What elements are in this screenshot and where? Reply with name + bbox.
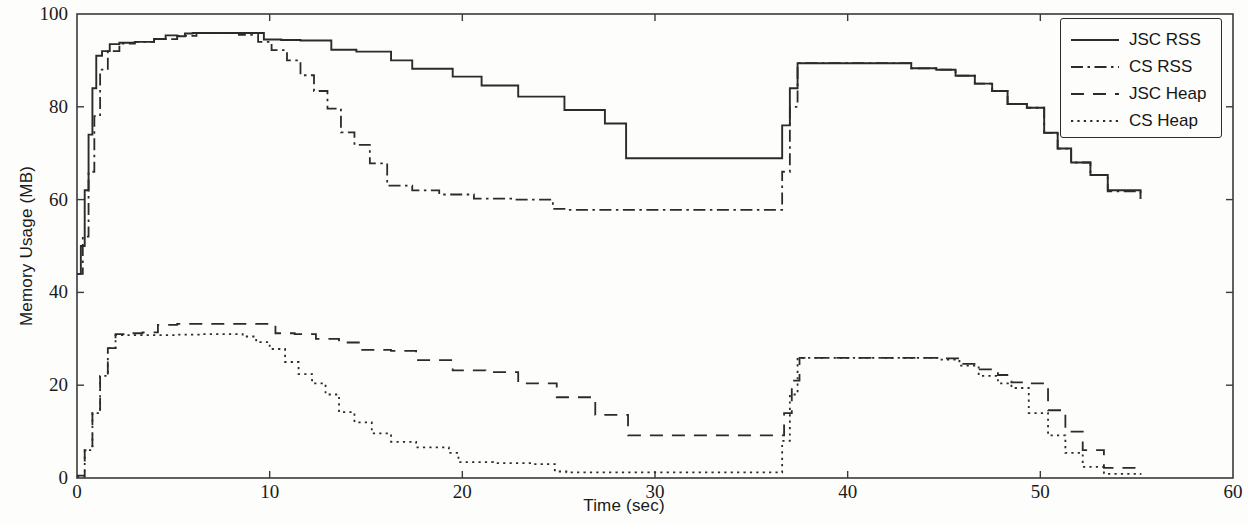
legend-swatch-solid	[1067, 32, 1123, 48]
legend-label: JSC Heap	[1129, 84, 1206, 104]
x-tick-label-40: 40	[838, 481, 857, 503]
memory-usage-chart-figure: Memory Usage (MB) Time (sec) 01020304050…	[0, 0, 1248, 525]
y-tick-label-100: 100	[16, 3, 68, 25]
legend-entry-jsc-heap[interactable]: JSC Heap	[1061, 80, 1221, 107]
x-tick-label-60: 60	[1224, 481, 1243, 503]
x-tick-label-50: 50	[1031, 481, 1050, 503]
series-line-cs-rss	[77, 33, 1141, 274]
legend-swatch-dashdot	[1067, 59, 1123, 75]
x-tick-label-20: 20	[453, 481, 472, 503]
y-tick-label-80: 80	[16, 96, 68, 118]
y-tick-label-60: 60	[16, 189, 68, 211]
legend-swatch-dashed	[1067, 86, 1123, 102]
x-axis-label: Time (sec)	[0, 496, 1248, 516]
legend-entry-cs-heap[interactable]: CS Heap	[1061, 107, 1221, 134]
y-tick-label-40: 40	[16, 281, 68, 303]
series-line-jsc-heap	[77, 324, 1141, 476]
series-line-cs-heap	[77, 334, 1141, 476]
data-series-group	[77, 33, 1141, 477]
x-tick-label-30: 30	[646, 481, 665, 503]
legend-entry-jsc-rss[interactable]: JSC RSS	[1061, 26, 1221, 53]
series-line-jsc-rss	[77, 33, 1141, 274]
legend-entry-cs-rss[interactable]: CS RSS	[1061, 53, 1221, 80]
legend-label: CS RSS	[1129, 57, 1192, 77]
x-tick-label-10: 10	[260, 481, 279, 503]
legend-label: CS Heap	[1129, 111, 1198, 131]
legend-label: JSC RSS	[1129, 30, 1201, 50]
y-tick-label-0: 0	[16, 467, 68, 489]
legend-swatch-dotted	[1067, 113, 1123, 129]
x-tick-label-0: 0	[72, 481, 82, 503]
y-tick-label-20: 20	[16, 374, 68, 396]
y-axis-label: Memory Usage (MB)	[17, 151, 37, 341]
chart-legend: JSC RSSCS RSSJSC HeapCS Heap	[1060, 18, 1222, 138]
